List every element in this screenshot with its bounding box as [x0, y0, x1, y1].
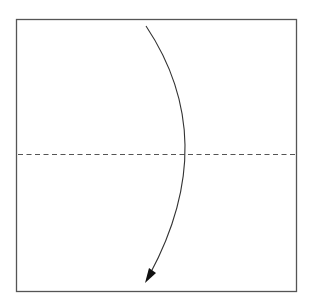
paper-square [17, 20, 297, 292]
